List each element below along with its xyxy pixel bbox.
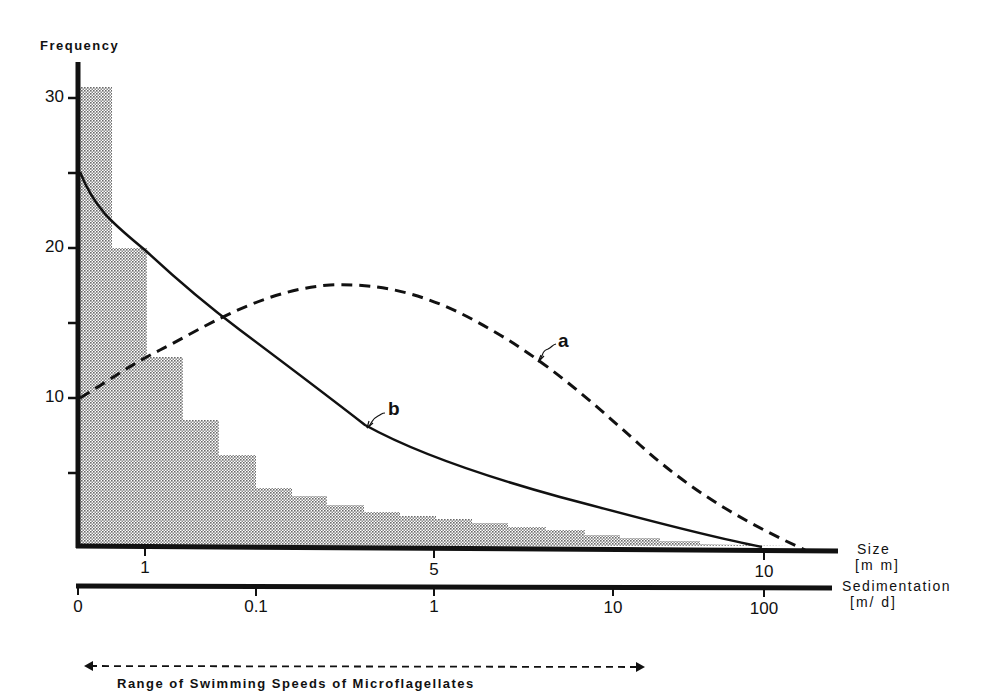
curve-a-label: a — [558, 330, 569, 352]
x-axis-unit: [m m] — [855, 557, 900, 573]
sedimentation-axis-title: Sedimentation — [842, 578, 951, 594]
y-tick-label-10: 10 — [24, 387, 64, 407]
curve-b-label: b — [388, 398, 400, 420]
histogram-bars — [80, 87, 790, 546]
y-tick-label-30: 30 — [24, 87, 64, 107]
sed-tick-label-1: 1 — [404, 597, 464, 617]
swimming-range-caption: Range of Swimming Speeds of Microflagell… — [117, 676, 475, 691]
arrowhead-left-icon — [84, 661, 93, 671]
x-tick-label-10: 10 — [734, 562, 794, 582]
x-axis-title: Size — [857, 541, 890, 557]
sed-tick-label-0: 0 — [48, 597, 108, 617]
x-tick-label-1: 1 — [115, 558, 175, 578]
y-tick-label-20: 20 — [24, 237, 64, 257]
swimming-range-arrow — [90, 666, 638, 667]
sed-tick-label-100: 100 — [734, 599, 794, 619]
sedimentation-axis-unit: [m/ d] — [850, 594, 897, 610]
y-axis-title: Frequency — [40, 38, 119, 53]
x-axis-size — [76, 546, 838, 551]
x-axis-sedimentation — [76, 586, 832, 588]
sed-tick-label-0-1: 0.1 — [226, 597, 286, 617]
arrowhead-right-icon — [636, 662, 645, 672]
x-tick-label-5: 5 — [404, 560, 464, 580]
sed-tick-label-10: 10 — [583, 598, 643, 618]
